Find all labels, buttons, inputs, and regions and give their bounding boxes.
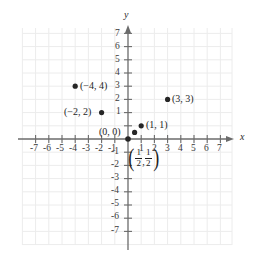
y-tick-label-2: 2 [115,94,120,104]
denominator: 2 [145,159,152,168]
data-point-neg4-4 [73,84,78,89]
y-tick-label-5: 5 [115,55,120,65]
y-tick-label--6: -6 [111,212,119,222]
point-label-3-3: (3, 3) [172,94,194,104]
y-tick-label-6: 6 [115,42,120,52]
y-tick-label--7: -7 [111,226,119,236]
x-axis-name: x [240,132,244,142]
point-label-neg4-4: (−4, 4) [80,81,107,91]
data-point-1-1 [139,123,144,128]
numerator: 1 [145,148,152,157]
x-tick-label-5: 5 [191,144,196,154]
x-tick-label-3: 3 [165,144,170,154]
point-label-origin: (0, 0) [99,127,121,137]
x-tick-label--2: -2 [95,144,103,154]
x-tick-label--5: -5 [56,144,64,154]
y-tick-label-4: 4 [115,68,120,78]
plot-canvas [0,0,256,268]
y-tick-label--5: -5 [111,199,119,209]
y-tick-label--4: -4 [111,186,119,196]
y-tick-label--2: -2 [111,160,119,170]
open-paren: ( [128,148,134,168]
y-tick-label-1: 1 [116,107,121,117]
fraction-one-half-y: 1 2 [145,148,152,168]
denominator: 2 [136,159,143,168]
x-tick-label-4: 4 [178,144,183,154]
y-tick-label-3: 3 [115,81,120,91]
coordinate-plane-figure: y x -7 -6 -5 -4 -3 -2 -1 1 2 3 4 5 6 7 7… [0,0,256,268]
x-tick-label--6: -6 [43,144,51,154]
y-tick-label--1: -1 [111,147,119,157]
fraction-one-half-x: 1 2 [135,148,142,168]
x-tick-label-7: 7 [217,144,222,154]
x-tick-label--4: -4 [69,144,77,154]
x-tick-label--7: -7 [30,144,38,154]
y-tick-label-7: 7 [115,29,120,39]
point-label-1-1: (1, 1) [146,120,168,130]
point-label-half-half: ( 1 2 , 1 2 ) [127,148,160,168]
y-axis-name: y [124,10,128,20]
x-tick-label-6: 6 [204,144,209,154]
point-label-neg2-2: (−2, 2) [64,107,91,117]
data-point-3-3 [165,97,170,102]
y-tick-label--3: -3 [111,173,119,183]
data-point-neg2-2 [99,110,104,115]
x-tick-label--3: -3 [82,144,90,154]
data-point-half-half [132,130,137,135]
close-paren: ) [153,148,159,168]
numerator: 1 [136,148,143,157]
data-point-origin [125,136,131,142]
